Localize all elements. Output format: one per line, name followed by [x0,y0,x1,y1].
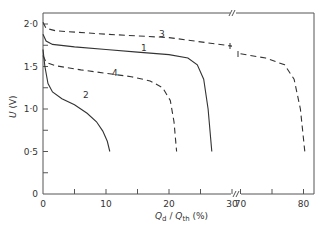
y-tick-label: 1·0 [24,104,39,114]
y-tick-label: 1·5 [24,62,38,72]
x-tick-label: 10 [100,199,112,209]
x-tick-label: 20 [163,199,175,209]
curve-label-1: 1 [141,43,147,53]
x-tick-label: 80 [298,199,310,209]
y-tick-label: 2·0 [24,19,39,29]
plot-frame [43,10,314,197]
tick-labels: 0102030708000·51·01·52·0 [24,19,310,209]
axis-ticks [43,24,304,194]
curve-3 [241,54,305,152]
curve-label-4: 4 [112,68,118,78]
x-axis-title: Qd / Qth (%) [155,211,208,223]
curve-label-2: 2 [83,90,89,100]
curve-1 [43,34,212,151]
x-tick-label: 70 [235,199,247,209]
y-axis-title: U (V) [8,95,18,118]
x-tick-label: 0 [40,199,46,209]
curve-4 [43,56,177,152]
y-tick-label: 0 [32,189,38,199]
curve-label-3: 3 [159,29,165,39]
discharge-chart: 0102030708000·51·01·52·0 1 2 3 4 Qd / Qt… [0,0,322,232]
curve3-break-marks [230,43,238,57]
y-tick-label: 0·5 [24,147,38,157]
curve-3 [43,22,232,46]
curves [43,22,305,151]
